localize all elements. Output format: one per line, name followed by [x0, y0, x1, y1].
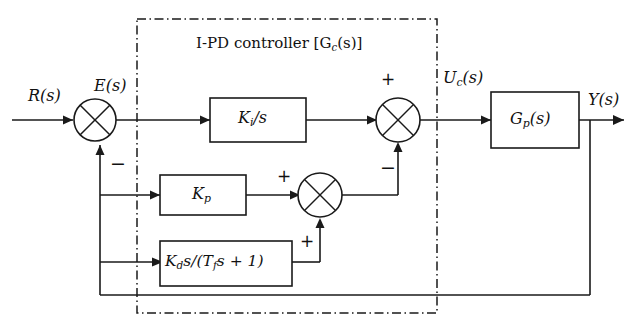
plant-block-label-main: G: [510, 109, 523, 128]
controller-group-title-tail: (s)]: [337, 34, 362, 52]
proportional-block-label: Kp: [192, 186, 211, 205]
derivative-block-label: Kds/(Tfs + 1): [165, 254, 264, 270]
control-signal-label-tail: (s): [463, 68, 484, 87]
plant-input-arrowhead: [481, 116, 491, 125]
pd-junction-left-plus-sign: +: [277, 168, 291, 185]
control-signal-label-main: U: [443, 68, 456, 87]
pd-junction-bottom-plus-sign: +: [300, 233, 314, 250]
derivative-block-label-tail: s/(T: [183, 252, 213, 270]
controller-group-title: I-PD controller [Gc(s)]: [196, 36, 362, 53]
proportional-block-arrowhead: [150, 191, 160, 200]
integral-block-arrowhead: [200, 116, 210, 125]
output-arrowhead: [613, 115, 624, 125]
controller-group-title-text: I-PD controller [G: [196, 34, 331, 52]
control-junction-minus-arrowhead: [394, 142, 403, 152]
derivative-block-label-tail2: s + 1): [217, 252, 264, 270]
plant-block-label-subscript: p: [523, 117, 530, 130]
control-junction-minus-sign: −: [380, 158, 396, 177]
plant-block-label-tail: (s): [530, 109, 551, 128]
integral-block-label-tail: /s: [253, 108, 267, 127]
pd-junction-bottom-arrowhead: [316, 218, 325, 228]
control-junction-plus-sign: +: [381, 71, 395, 88]
derivative-block-label-main: K: [165, 252, 177, 270]
proportional-block-label-subscript: p: [204, 192, 211, 205]
error-signal-label: E(s): [94, 78, 126, 94]
control-signal-label: Uc(s): [443, 70, 483, 89]
reference-input-arrowhead: [63, 116, 73, 125]
integral-block-label: Ki/s: [238, 110, 267, 129]
block-diagram-figure: I-PD controller [Gc(s)] R(s) E(s) − Ki/s…: [0, 0, 631, 334]
proportional-block-label-main: K: [192, 184, 204, 203]
reference-signal-label: R(s): [28, 88, 61, 104]
error-junction-minus-sign: −: [110, 154, 126, 173]
plant-block-label: Gp(s): [510, 111, 550, 130]
integral-block-label-main: K: [238, 108, 250, 127]
output-signal-label: Y(s): [588, 92, 619, 108]
error-junction-minus-arrowhead: [96, 145, 105, 155]
